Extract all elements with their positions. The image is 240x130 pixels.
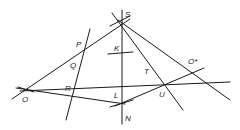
- line-S-T-U: [112, 13, 183, 110]
- line-L-U-Ostar: [115, 68, 204, 106]
- point-label-p: P: [76, 40, 82, 49]
- point-label-k: K: [114, 44, 120, 53]
- construction-lines: [12, 10, 230, 124]
- line-S-Ostar: [118, 20, 230, 100]
- point-label-u: U: [159, 90, 165, 99]
- point-label-n: N: [125, 114, 131, 123]
- point-label-s: S: [125, 10, 131, 19]
- point-label-o: O: [22, 95, 28, 104]
- point-label-r: R: [65, 84, 71, 93]
- geometry-diagram: SPQROKLNTUO*: [0, 0, 240, 130]
- line-O-K-Ostar: [20, 82, 230, 91]
- point-label-q: Q: [70, 61, 76, 70]
- tick-K: [108, 52, 133, 54]
- point-label-ostar: O*: [188, 57, 198, 66]
- point-labels: SPQROKLNTUO*: [22, 10, 198, 123]
- point-label-l: L: [114, 91, 118, 100]
- point-label-t: T: [144, 67, 150, 76]
